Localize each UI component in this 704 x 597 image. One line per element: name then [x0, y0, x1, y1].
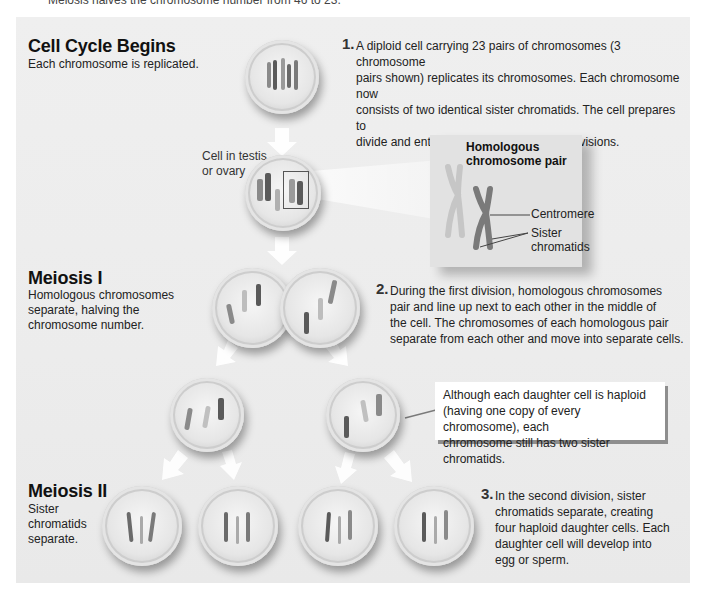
callout-line: (having one copy of every chromosome), e… — [443, 403, 657, 435]
chromosome-icon — [376, 394, 382, 416]
chromosome-icon — [328, 280, 338, 305]
chromosome-icon — [281, 58, 285, 90]
chromatid-icon — [148, 512, 156, 542]
homologous-pair-inset: Homologous chromosome pair Centromere Si… — [430, 135, 582, 267]
arrow-down-icon — [267, 237, 297, 265]
chromosome-icon — [344, 416, 349, 438]
sister-chromatids-label: Sister chromatids — [531, 226, 590, 254]
arrow-down-icon — [267, 128, 297, 156]
callout-line: Although each daughter cell is haploid — [443, 387, 657, 403]
chromatid-icon — [338, 516, 341, 544]
daughter-cell-right — [326, 378, 400, 452]
chromosome-icon — [318, 298, 323, 320]
chromosome-icon — [275, 189, 280, 211]
haploid-callout: Although each daughter cell is haploid (… — [435, 382, 665, 440]
chromosome-icon — [294, 60, 298, 90]
chromatid-icon — [348, 510, 352, 540]
chromatid-icon — [325, 512, 331, 542]
haploid-cell-2 — [198, 486, 278, 566]
chromatid-icon — [434, 516, 437, 544]
chromosome-icon — [267, 62, 271, 88]
arrow-diagonal-icon — [220, 450, 242, 480]
chromatid-icon — [444, 510, 448, 540]
daughter-cell-left — [170, 378, 244, 452]
centromere-label: Centromere — [531, 207, 594, 221]
arrow-diagonal-icon — [384, 450, 412, 482]
arrow-diagonal-icon — [335, 452, 357, 484]
chromosome-icon — [265, 173, 271, 201]
chromatid-icon — [422, 512, 426, 542]
chromatid-icon — [236, 516, 239, 544]
chromosome-icon — [360, 400, 369, 423]
chromosome-icon — [184, 408, 193, 431]
chromosome-icon — [226, 304, 235, 325]
chromatid-icon — [246, 512, 250, 542]
chromatid-icon — [224, 512, 228, 542]
chromosome-icon — [304, 312, 309, 334]
haploid-cell-4 — [394, 486, 474, 566]
chromatid-icon — [126, 512, 133, 542]
label-line: chromatids — [531, 240, 590, 254]
arrow-diagonal-icon — [162, 450, 188, 480]
label-line: Sister — [531, 226, 590, 240]
chromosome-icon — [287, 64, 291, 88]
callout-line: chromosome still has two sister chromati… — [443, 435, 657, 467]
chromosome-icon — [256, 284, 261, 306]
haploid-cell-1 — [102, 486, 182, 566]
chromosome-icon — [257, 179, 263, 201]
chromosome-icon — [273, 60, 277, 90]
chromosome-icon — [202, 406, 211, 429]
chromatid-icon — [140, 516, 143, 544]
diploid-cell — [245, 40, 319, 114]
chromosome-icon — [218, 398, 224, 420]
meiosis-1-cell-right — [280, 268, 360, 348]
replicated-cell — [245, 155, 321, 231]
chromosome-icon — [242, 290, 247, 312]
haploid-cell-3 — [298, 486, 378, 566]
highlight-box — [283, 171, 309, 209]
